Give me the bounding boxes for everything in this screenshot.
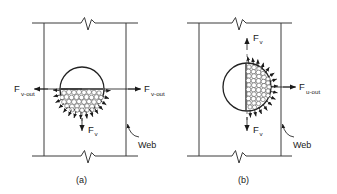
web-leader-b [283,124,295,137]
web-label-a: Web [138,140,156,150]
force-vertical-label-a: F v [88,124,99,137]
web-leader-a [128,124,140,137]
svg-text:F: F [88,124,94,135]
svg-text:v-out: v-out [21,90,35,97]
top-flange-line-a [32,18,138,31]
bottom-flange-line-b [187,151,292,164]
figure-container: F v-out F v-out F v Web (a) [0,0,337,194]
svg-text:F: F [14,83,20,94]
bottom-flange-line-a [32,151,138,164]
panel-b: F u-out F v F v Web (b) [187,18,320,186]
svg-text:F: F [253,32,259,43]
top-flange-line-b [187,18,292,31]
svg-text:F: F [144,83,150,94]
svg-text:v-out: v-out [151,90,165,97]
caption-a: (a) [76,175,87,185]
svg-text:v: v [260,38,264,45]
bubble-fill-b [246,65,271,109]
force-right-label-a: F v-out [144,83,165,97]
force-vertical-top-label-b: F v [253,32,264,45]
svg-text:u-out: u-out [306,88,320,95]
force-left-label-a: F v-out [14,83,35,97]
force-right-label-b: F u-out [299,81,320,95]
caption-b: (b) [238,175,249,185]
technical-diagram: F v-out F v-out F v Web (a) [0,0,337,194]
web-label-b: Web [293,140,311,150]
svg-text:F: F [299,81,305,92]
svg-text:v: v [95,130,99,137]
svg-text:F: F [253,124,259,135]
force-vertical-bottom-label-b: F v [253,124,264,137]
svg-text:v: v [260,130,264,137]
panel-a: F v-out F v-out F v Web (a) [14,18,165,186]
